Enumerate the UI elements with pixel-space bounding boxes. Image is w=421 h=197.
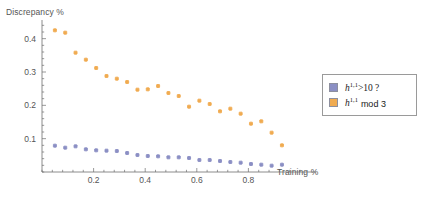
data-point [157,85,160,88]
data-point [239,161,242,164]
data-point [188,105,191,108]
data-point [84,58,87,61]
data-point [64,31,67,34]
data-point [157,155,160,158]
data-points [53,29,283,167]
legend-h-exponent-1: 1,1 [350,96,358,103]
data-point [105,75,108,78]
data-point [64,146,67,149]
y-tick-label: 0.2 [24,100,36,110]
data-point [126,152,129,155]
data-point [219,160,222,163]
data-point [146,155,149,158]
data-point [136,88,139,91]
data-point [249,163,252,166]
legend-label-0: h1,1>10 ? [345,81,379,93]
data-point [229,161,232,164]
data-point [115,150,118,153]
data-point [249,122,252,125]
data-point [280,163,283,166]
data-point [105,149,108,152]
data-point [280,144,283,147]
x-tick-label: 0.6 [191,175,203,185]
data-point [115,77,118,80]
legend-item-1[interactable]: h1,1mod 3 [329,95,410,110]
legend-swatch-blue [329,83,338,92]
x-tick-label: 0.8 [242,175,254,185]
legend-rest-0: >10 ? [358,84,379,94]
data-point [177,95,180,98]
legend-item-0[interactable]: h1,1>10 ? [329,80,410,95]
y-tick-label: 0.3 [24,67,36,77]
data-point [126,81,129,84]
data-point [74,145,77,148]
data-point [84,148,87,151]
x-tick-label: 0.2 [88,175,100,185]
data-point [260,120,263,123]
data-point [167,156,170,159]
data-point [198,159,201,162]
legend-swatch-orange [329,98,338,107]
data-point [136,154,139,157]
data-point [260,163,263,166]
data-point [208,103,211,106]
data-point [229,107,232,110]
data-point [53,144,56,147]
legend-label-1: h1,1mod 3 [345,96,386,108]
data-point [74,51,77,54]
data-point [198,99,201,102]
data-point [167,92,170,95]
chart-legend: h1,1>10 ? h1,1mod 3 [322,74,417,116]
data-point [270,131,273,134]
legend-h-exponent-0: 1,1 [350,81,358,88]
series-0 [53,144,283,167]
y-tick-label: 0.4 [24,34,36,44]
data-point [53,29,56,32]
legend-rest-1: mod 3 [361,99,386,109]
chart-figure: Discrepancy % Training % 0.20.40.60.80.1… [0,0,421,197]
data-point [95,67,98,70]
x-tick-label: 0.4 [139,175,151,185]
data-point [95,149,98,152]
series-1 [53,29,283,147]
data-point [188,157,191,160]
data-point [239,112,242,115]
y-tick-label: 0.1 [24,134,36,144]
data-point [219,110,222,113]
data-point [208,159,211,162]
data-point [177,156,180,159]
data-point [270,164,273,167]
data-point [146,88,149,91]
